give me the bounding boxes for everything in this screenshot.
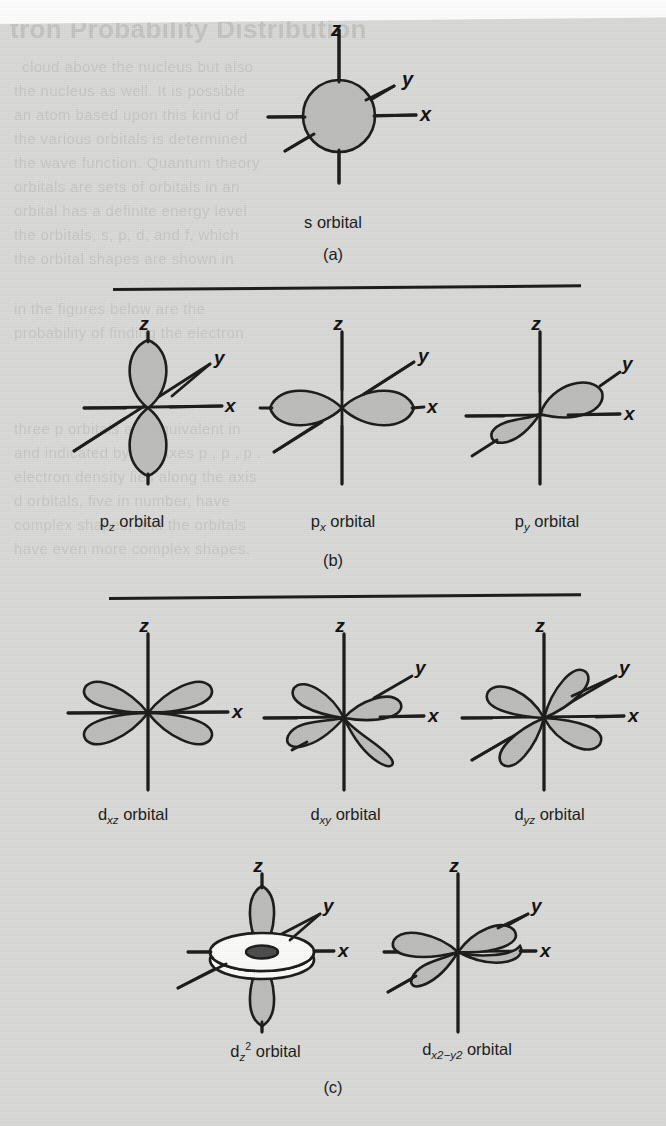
py-orbital-diagram: z y x <box>452 312 642 502</box>
scanned-figure-page: tron Probability Distribution cloud abov… <box>0 0 666 1126</box>
axis-label-x: x <box>623 403 636 424</box>
caption-symbol: p <box>311 512 320 530</box>
pz-orbital-diagram: z y x <box>62 312 242 502</box>
caption-text: orbital <box>331 805 381 823</box>
axis-label-y: y <box>621 353 634 374</box>
axis-label-z: z <box>138 618 149 636</box>
caption-symbol: d <box>422 1040 431 1058</box>
dx2-y2-orbital-caption: dx2−y2 orbital <box>362 1040 572 1061</box>
dyz-orbital-caption: dyz orbital <box>452 805 647 826</box>
axis-label-y: y <box>401 68 414 90</box>
axis-label-y: y <box>530 895 543 916</box>
dxz-orbital-diagram: z x <box>58 618 248 808</box>
dxz-orbital-caption: dxz orbital <box>38 805 228 826</box>
axis-label-z: z <box>138 313 149 334</box>
ghost-line: cloud above the nucleus but also <box>22 58 253 75</box>
axis-label-x: x <box>224 395 237 416</box>
axis-label-x: x <box>426 396 439 417</box>
axis-label-z: z <box>332 313 343 334</box>
caption-text: orbital <box>115 512 165 530</box>
caption-text: orbital <box>462 1040 512 1058</box>
caption-text: orbital <box>535 805 585 823</box>
pz-orbital-caption: pz orbital <box>42 512 222 533</box>
s-orbital-diagram: z y x <box>244 20 434 210</box>
px-orbital-diagram: z y x <box>252 312 442 502</box>
caption-symbol: p <box>100 512 109 530</box>
dz2-orbital-diagram: z y x <box>170 856 360 1051</box>
axis-label-z: z <box>252 856 263 876</box>
caption-text: orbital <box>251 1042 301 1060</box>
dz2-orbital-caption: dz2 orbital <box>168 1040 363 1063</box>
panel-label-b: (b) <box>0 551 666 570</box>
axis-label-z: z <box>330 20 341 40</box>
py-orbital-caption: py orbital <box>452 512 642 533</box>
caption-symbol: d <box>98 805 107 823</box>
caption-text: orbital <box>119 805 169 823</box>
axis-label-y: y <box>618 657 631 678</box>
ghost-line: the nucleus as well. It is possible <box>14 82 246 99</box>
caption-subscript: yz <box>524 814 536 826</box>
ghost-line: the wave function. Quantum theory <box>14 154 260 171</box>
caption-symbol: p <box>515 512 524 530</box>
ghost-line: orbitals are sets of orbitals in an <box>14 178 240 195</box>
axis-label-z: z <box>448 856 459 876</box>
panel-label-c: (c) <box>0 1078 666 1097</box>
caption-symbol: d <box>310 805 319 823</box>
caption-symbol: d <box>514 805 523 823</box>
axis-label-z: z <box>534 618 545 636</box>
dx2-y2-orbital-diagram: z y x <box>368 856 563 1051</box>
axis-label-y: y <box>213 347 226 368</box>
axis-label-x: x <box>419 103 432 125</box>
axis-label-x: x <box>427 705 440 726</box>
axis-label-x: x <box>337 940 350 961</box>
caption-subscript: z <box>240 1051 246 1063</box>
dxy-orbital-caption: dxy orbital <box>248 805 443 826</box>
axis-label-z: z <box>334 618 345 636</box>
caption-text: orbital <box>326 512 376 530</box>
ghost-line: the various orbitals is determined <box>14 130 248 147</box>
axis-label-y: y <box>417 345 430 366</box>
caption-text: orbital <box>530 512 580 530</box>
axis-label-y: y <box>322 895 335 916</box>
axis-label-y: y <box>414 657 427 678</box>
caption-subscript: xz <box>107 814 119 826</box>
divider-a-b <box>113 284 581 291</box>
panel-label-a: (a) <box>0 245 666 264</box>
caption-symbol: d <box>230 1042 239 1060</box>
divider-b-c <box>109 593 581 600</box>
caption-text: orbital <box>312 213 362 231</box>
s-orbital-caption: s orbital <box>0 213 666 232</box>
axis-label-x: x <box>231 701 244 722</box>
axis-label-x: x <box>539 940 552 961</box>
dyz-orbital-diagram: z y x <box>452 618 647 808</box>
scan-top-edge <box>0 0 666 24</box>
caption-subscript: xy <box>320 814 332 826</box>
dxy-orbital-diagram: z y x <box>252 618 447 808</box>
px-orbital-caption: px orbital <box>248 512 438 533</box>
axis-label-z: z <box>530 313 541 334</box>
axis-label-x: x <box>627 705 640 726</box>
ghost-line: an atom based upon this kind of <box>14 106 239 123</box>
